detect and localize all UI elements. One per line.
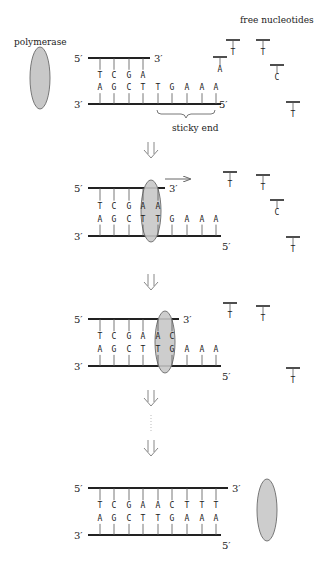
svg-text:T: T	[231, 48, 236, 57]
five-prime-label: 5′	[222, 371, 231, 382]
bottom-base: C	[127, 514, 132, 523]
sticky-end-brace	[157, 110, 215, 118]
bottom-base: G	[112, 215, 117, 224]
top-base: A	[141, 501, 146, 510]
bottom-base: C	[127, 345, 132, 354]
svg-text:T: T	[261, 48, 266, 57]
polymerase-label: polymerase	[14, 37, 67, 47]
five-prime-label: 5′	[74, 183, 83, 194]
free-nucleotides-label: free nucleotides	[240, 15, 314, 25]
bottom-base: G	[170, 83, 175, 92]
top-base: T	[98, 202, 103, 211]
three-prime-label: 3′	[74, 361, 83, 372]
free-nucleotide: T	[223, 303, 237, 320]
bottom-base: C	[127, 83, 132, 92]
top-base: C	[112, 202, 117, 211]
polymerase-free-icon	[30, 47, 50, 109]
top-base: T	[185, 501, 190, 510]
three-prime-label: 3′	[74, 231, 83, 242]
svg-text:C: C	[275, 208, 280, 217]
free-nucleotide: T	[286, 368, 300, 385]
free-nucleotide: T	[256, 40, 270, 57]
bottom-base: G	[170, 345, 175, 354]
top-base: C	[170, 501, 175, 510]
bottom-base: A	[214, 514, 219, 523]
top-base: T	[200, 501, 205, 510]
top-base: A	[156, 202, 161, 211]
top-base: T	[98, 332, 103, 341]
bottom-base: A	[200, 345, 205, 354]
dna-panel-1: 5′3′3′5′TCGAAGCTTGAAATATCT	[74, 40, 300, 119]
free-nucleotide: T	[223, 172, 237, 189]
bottom-base: G	[170, 215, 175, 224]
bottom-base: G	[170, 514, 175, 523]
top-base: C	[112, 501, 117, 510]
top-base: A	[156, 332, 161, 341]
free-nucleotide: T	[256, 306, 270, 323]
bottom-base: T	[141, 215, 146, 224]
svg-text:C: C	[275, 73, 280, 82]
free-nucleotide: C	[270, 65, 284, 82]
top-base: C	[112, 71, 117, 80]
free-nucleotide: T	[256, 175, 270, 192]
top-base: G	[127, 202, 132, 211]
top-base: T	[214, 501, 219, 510]
five-prime-label: 5′	[219, 99, 228, 110]
bottom-base: T	[156, 83, 161, 92]
svg-text:T: T	[291, 110, 296, 119]
bottom-base: G	[112, 83, 117, 92]
free-nucleotide: C	[270, 200, 284, 217]
top-base: G	[127, 71, 132, 80]
five-prime-label: 5′	[74, 314, 83, 325]
top-base: A	[141, 202, 146, 211]
bottom-base: A	[98, 83, 103, 92]
bottom-base: T	[156, 514, 161, 523]
polymerase-icon	[257, 479, 277, 541]
five-prime-label: 5′	[74, 53, 83, 64]
bottom-base: T	[141, 83, 146, 92]
bottom-base: A	[185, 514, 190, 523]
three-prime-label: 3′	[232, 483, 241, 494]
dna-replication-diagram: polymerase free nucleotides 5′3′3′5′TCGA…	[0, 0, 319, 573]
svg-text:T: T	[261, 314, 266, 323]
bottom-base: T	[141, 514, 146, 523]
bottom-base: A	[200, 514, 205, 523]
bottom-base: A	[200, 215, 205, 224]
free-nucleotide: T	[286, 102, 300, 119]
svg-text:T: T	[291, 245, 296, 254]
top-base: T	[98, 71, 103, 80]
dna-panel-4: 5′3′3′5′TCGAACTTTAGCTTGAAA	[74, 479, 277, 551]
top-base: T	[98, 501, 103, 510]
bottom-base: A	[185, 215, 190, 224]
bottom-base: C	[127, 215, 132, 224]
sticky-end-label: sticky end	[172, 123, 219, 133]
five-prime-label: 5′	[74, 483, 83, 494]
bottom-base: T	[156, 345, 161, 354]
svg-text:T: T	[228, 311, 233, 320]
top-base: C	[112, 332, 117, 341]
top-base: A	[141, 332, 146, 341]
five-prime-label: 5′	[222, 540, 231, 551]
svg-text:T: T	[228, 180, 233, 189]
svg-text:T: T	[291, 376, 296, 385]
bottom-base: G	[112, 514, 117, 523]
top-base: A	[156, 501, 161, 510]
bottom-base: A	[214, 345, 219, 354]
top-base: G	[127, 501, 132, 510]
svg-text:A: A	[218, 65, 223, 74]
bottom-base: T	[141, 345, 146, 354]
bottom-base: A	[200, 83, 205, 92]
dna-panel-2: 5′3′3′5′TCGAAAGCTTGAAATTCT	[74, 172, 300, 254]
three-prime-label: 3′	[183, 314, 192, 325]
bottom-base: A	[214, 83, 219, 92]
top-base: G	[127, 332, 132, 341]
five-prime-label: 5′	[222, 241, 231, 252]
bottom-base: T	[156, 215, 161, 224]
top-base: C	[170, 332, 175, 341]
bottom-base: A	[185, 345, 190, 354]
bottom-base: A	[98, 345, 103, 354]
bottom-base: A	[214, 215, 219, 224]
dna-panel-3: 5′3′3′5′TCGAACAGCTTGAAATTT	[74, 303, 300, 385]
svg-text:T: T	[261, 183, 266, 192]
three-prime-label: 3′	[74, 530, 83, 541]
